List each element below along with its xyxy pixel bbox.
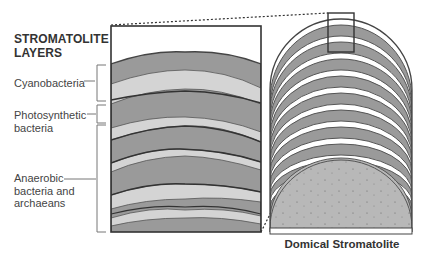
dome-layers xyxy=(270,0,412,240)
diagram-graphics xyxy=(0,0,427,264)
stromatolite-diagram: STROMATOLITE LAYERS Cyanobacteria Photos… xyxy=(0,0,427,264)
magnified-layers xyxy=(111,26,261,240)
dome-caption: Domical Stromatolite xyxy=(272,238,412,250)
label-brackets xyxy=(64,65,106,232)
dome-base xyxy=(270,228,412,234)
